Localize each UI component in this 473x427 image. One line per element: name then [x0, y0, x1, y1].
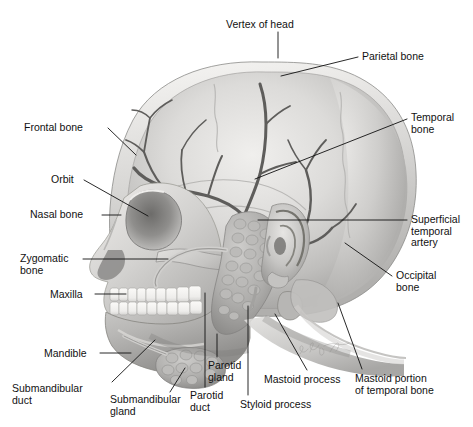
- label-superficial-temporal-artery: Superficial temporal artery: [411, 214, 460, 249]
- label-nasal-bone: Nasal bone: [30, 209, 83, 221]
- label-submandibular-gland: Submandibular gland: [110, 394, 181, 417]
- lower-teeth: [110, 301, 202, 315]
- label-zygomatic-bone: Zygomatic bone: [20, 253, 68, 276]
- label-vertex-of-head: Vertex of head: [226, 19, 294, 31]
- label-submandibular-duct: Submandibular duct: [12, 383, 83, 406]
- label-frontal-bone: Frontal bone: [24, 122, 83, 134]
- label-temporal-bone: Temporal bone: [411, 112, 454, 135]
- label-maxilla: Maxilla: [50, 289, 83, 301]
- label-parotid-duct: Parotid duct: [190, 390, 223, 413]
- label-mastoid-process: Mastoid process: [264, 374, 340, 386]
- label-mandible: Mandible: [44, 348, 87, 360]
- label-parietal-bone: Parietal bone: [362, 51, 424, 63]
- label-parotid-gland: Parotid gland: [208, 360, 241, 383]
- label-occipital-bone: Occipital bone: [396, 270, 436, 293]
- label-styloid-process: Styloid process: [240, 399, 311, 411]
- label-orbit: Orbit: [51, 174, 74, 186]
- label-mastoid-portion-of-temporal-bone: Mastoid portion of temporal bone: [355, 373, 434, 396]
- anatomy-figure-page: Vertex of headParietal boneFrontal boneT…: [0, 0, 473, 427]
